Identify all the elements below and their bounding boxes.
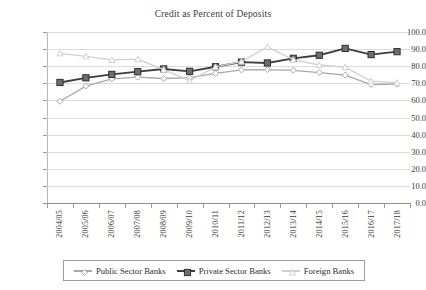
- data-point: [290, 67, 296, 73]
- data-point: [368, 51, 374, 57]
- data-point: [342, 72, 348, 78]
- square-marker-icon: [177, 266, 195, 275]
- legend-item-3[interactable]: Foreign Banks: [282, 266, 354, 276]
- diamond-marker-icon: [74, 266, 92, 275]
- legend-label: Public Sector Banks: [96, 266, 166, 276]
- legend-item-2[interactable]: Private Sector Banks: [177, 266, 271, 276]
- data-point: [109, 71, 115, 77]
- data-point: [213, 70, 219, 76]
- data-point: [264, 60, 270, 66]
- data-point: [83, 75, 89, 81]
- data-point: [342, 45, 348, 51]
- data-point: [264, 44, 270, 50]
- data-point: [57, 79, 63, 85]
- data-point: [83, 83, 89, 89]
- data-point: [187, 68, 193, 74]
- data-point: [135, 69, 141, 75]
- data-point: [238, 67, 244, 73]
- triangle-marker-icon: [282, 266, 300, 275]
- data-point: [161, 76, 167, 82]
- chart-legend: Public Sector BanksPrivate Sector BanksF…: [63, 260, 365, 281]
- data-point: [316, 70, 322, 76]
- data-point: [57, 98, 63, 104]
- data-point: [394, 49, 400, 55]
- data-point: [316, 52, 322, 58]
- legend-label: Foreign Banks: [304, 266, 354, 276]
- legend-label: Private Sector Banks: [199, 266, 271, 276]
- legend-item-1[interactable]: Public Sector Banks: [74, 266, 166, 276]
- series-plot-layer: [0, 0, 426, 290]
- chart-container: Credit as Percent of Deposits 0.010.020.…: [0, 0, 426, 290]
- data-point: [264, 67, 270, 73]
